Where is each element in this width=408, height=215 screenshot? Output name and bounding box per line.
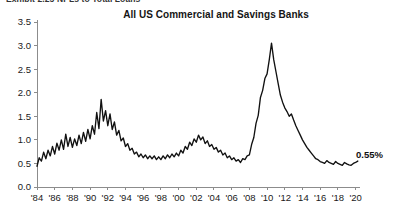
x-tick-label: '14 [296,192,308,203]
x-tick-label: '20 [349,192,361,203]
x-tick-label: '12 [279,192,291,203]
annotation-layer: 0.55% [356,149,383,160]
y-tick-label: 0.5 [18,158,31,169]
y-tick-label: 2.0 [18,87,31,98]
x-tick-label: '86 [49,192,61,203]
y-axis: 0.00.51.01.52.02.53.03.5 [18,16,37,192]
last-value-label: 0.55% [356,149,383,160]
series-layer [37,43,358,166]
y-tick-label: 3.0 [18,40,31,51]
x-tick-label: '98 [155,192,167,203]
x-tick-label: '06 [225,192,237,203]
x-tick-label: '92 [102,192,114,203]
chart-root: Exhibit 2.25 NPLs to Total Loans All US … [0,0,408,215]
x-tick-label: '18 [332,192,344,203]
x-tick-label: '16 [314,192,326,203]
y-tick-label: 1.5 [18,111,31,122]
x-tick-label: '08 [243,192,255,203]
x-tick-label: '94 [119,192,131,203]
x-tick-label: '96 [137,192,149,203]
series-line [37,43,358,166]
chart-svg: 0.00.51.01.52.02.53.03.5 '84'86'88'90'92… [0,0,408,215]
y-tick-label: 3.5 [18,16,31,27]
x-tick-label: '02 [190,192,202,203]
x-tick-label: '04 [208,192,220,203]
line-chart-plot: 0.00.51.01.52.02.53.03.5 '84'86'88'90'92… [0,0,408,215]
y-tick-label: 1.0 [18,134,31,145]
x-tick-label: '88 [66,192,78,203]
y-tick-label: 2.5 [18,64,31,75]
y-tick-label: 0.0 [18,181,31,192]
x-tick-label: '84 [31,192,43,203]
x-tick-label: '10 [261,192,273,203]
x-tick-label: '00 [172,192,184,203]
x-tick-label: '90 [84,192,96,203]
x-axis: '84'86'88'90'92'94'96'98'00'02'04'06'08'… [31,187,362,203]
